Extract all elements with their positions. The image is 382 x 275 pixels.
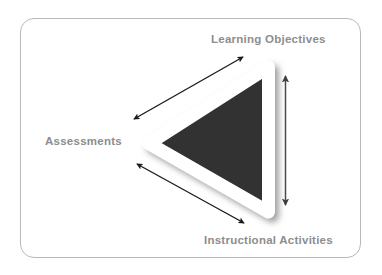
diagram-canvas: Learning Objectives Assessments Instruct… <box>0 0 382 275</box>
alignment-triangle <box>149 67 269 212</box>
triangle-shadow-group <box>149 67 269 212</box>
label-instructional-activities: Instructional Activities <box>204 234 333 247</box>
label-assessments: Assessments <box>45 135 122 148</box>
label-learning-objectives: Learning Objectives <box>211 33 326 46</box>
